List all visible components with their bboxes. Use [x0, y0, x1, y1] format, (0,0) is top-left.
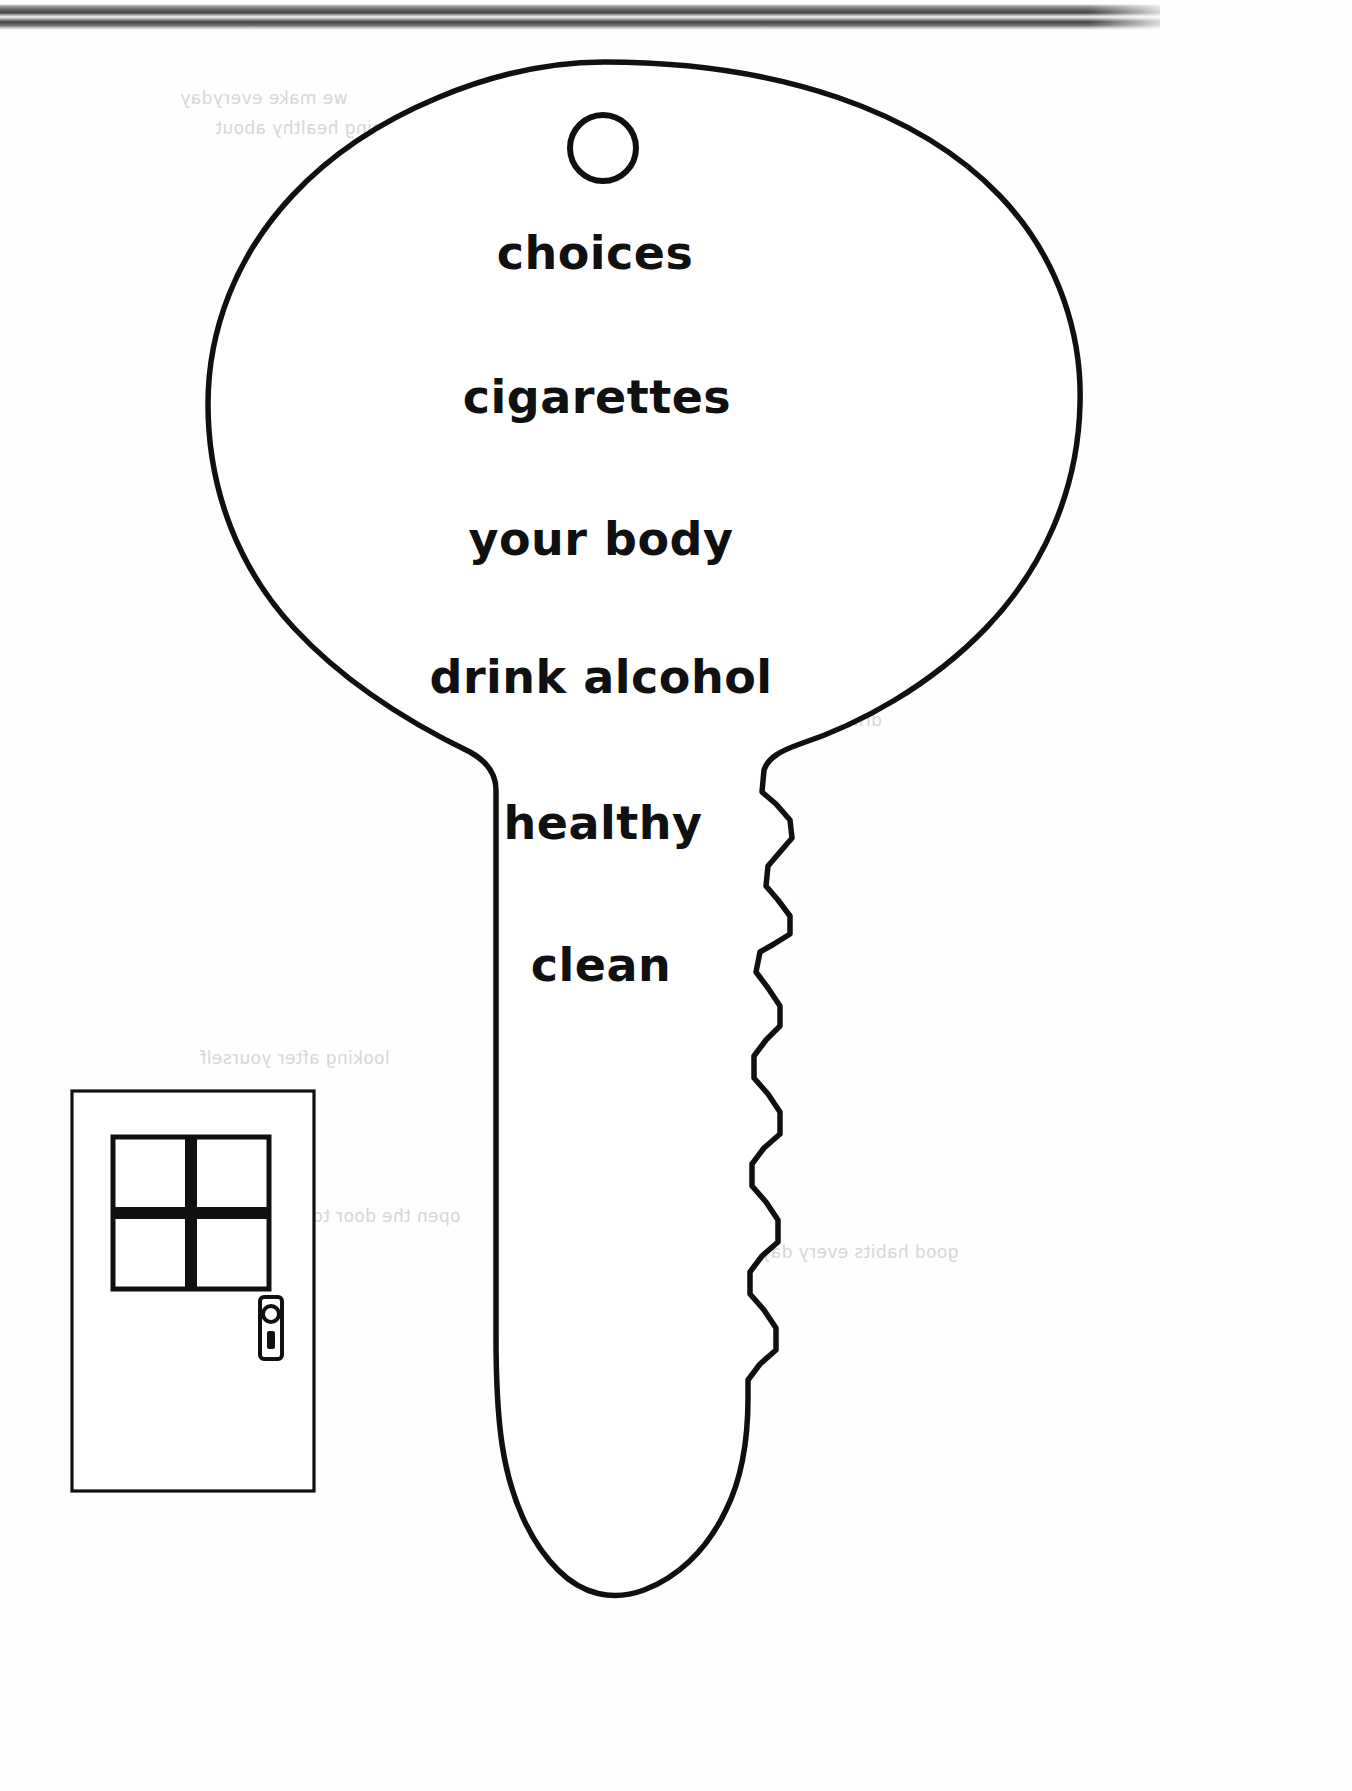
key-word-healthy[interactable]: healthy — [504, 796, 703, 850]
door-knob — [263, 1306, 279, 1322]
key-hole-circle — [570, 115, 636, 181]
key-word-drink-alcohol[interactable]: drink alcohol — [429, 650, 772, 704]
key-word-cigarettes[interactable]: cigarettes — [463, 370, 731, 424]
door-illustration — [66, 1085, 336, 1505]
door-keyhole — [267, 1331, 275, 1349]
door-window-mullion-horizontal — [113, 1207, 269, 1219]
key-word-choices[interactable]: choices — [497, 226, 694, 280]
key-word-clean[interactable]: clean — [531, 938, 672, 992]
door-window — [113, 1137, 269, 1289]
key-word-your-body[interactable]: your body — [469, 512, 734, 566]
door-handle — [260, 1297, 282, 1359]
